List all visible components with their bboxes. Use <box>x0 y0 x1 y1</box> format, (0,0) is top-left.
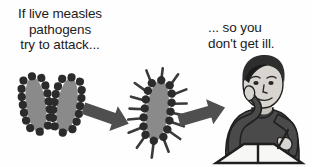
left-hand <box>244 86 255 101</box>
live-pathogen-1 <box>14 70 57 138</box>
live-pathogen-group <box>10 70 90 140</box>
arrow-pathogens-to-antibodies <box>80 98 132 134</box>
healthy-student-illustration <box>196 52 312 167</box>
caption-right-text: ... so you don't get ill. <box>208 20 308 51</box>
measles-immunity-diagram: If live measles pathogens try to attack.… <box>0 0 312 167</box>
caption-left-text: If live measles pathogens try to attack.… <box>4 6 116 53</box>
